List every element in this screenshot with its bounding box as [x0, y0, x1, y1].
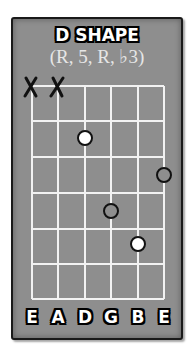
string-label-a: A	[48, 307, 68, 327]
string-label-g: G	[101, 307, 121, 327]
root-dot-d-fret2	[78, 131, 92, 145]
note-dot-g-fret4	[104, 204, 118, 218]
root-dot-b-fret5	[131, 237, 145, 251]
fret-grid	[32, 86, 164, 299]
string-label-e-high: E	[154, 307, 174, 327]
string-label-d: D	[75, 307, 95, 327]
string-label-b: B	[128, 307, 148, 327]
note-dot-e-high-fret3	[157, 168, 171, 182]
string-label-e-low: E	[22, 307, 42, 327]
fretboard-diagram	[0, 0, 194, 358]
string-labels: E A D G B E	[0, 307, 194, 335]
